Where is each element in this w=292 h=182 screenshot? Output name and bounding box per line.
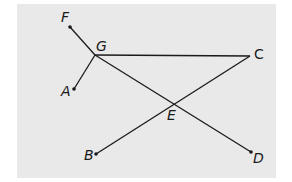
point-a-dot xyxy=(72,87,76,91)
label-a: A xyxy=(61,84,71,98)
label-e: E xyxy=(167,108,176,122)
geometry-figure xyxy=(0,0,292,182)
label-b: B xyxy=(84,148,94,162)
label-f: F xyxy=(61,10,69,24)
point-b-dot xyxy=(94,152,98,156)
label-d: D xyxy=(253,151,264,165)
segment-fg xyxy=(70,27,95,55)
segment-ga xyxy=(74,55,95,89)
label-c: C xyxy=(254,47,264,61)
label-g: G xyxy=(96,39,107,53)
point-f-dot xyxy=(68,25,72,29)
segment-gc xyxy=(95,55,250,56)
